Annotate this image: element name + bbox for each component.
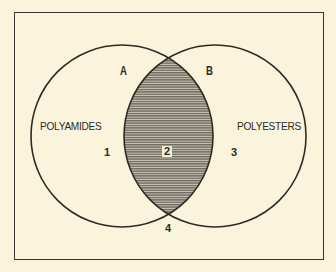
set-letter-a: A	[120, 64, 127, 78]
set-name-polyamides: POLYAMIDES	[40, 120, 102, 132]
intersection-region	[124, 45, 306, 227]
region-label-2: 2	[162, 146, 172, 157]
region-label-1: 1	[104, 146, 110, 158]
set-letter-b: B	[206, 64, 213, 78]
set-name-polyesters: POLYESTERS	[237, 120, 301, 132]
region-label-3: 3	[231, 146, 237, 158]
region-label-4: 4	[165, 222, 171, 234]
